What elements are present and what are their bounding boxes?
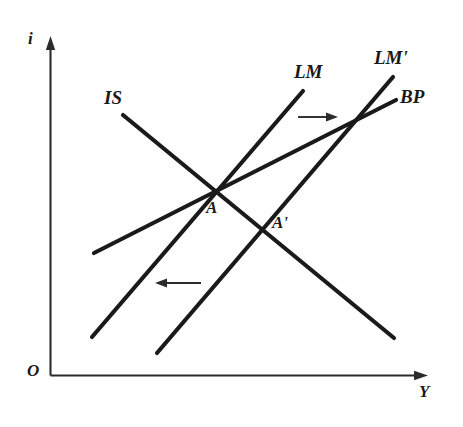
rightward-shift-arrow-head — [326, 113, 338, 122]
x-axis-arrowhead — [414, 371, 428, 380]
equilibrium-a-prime-label: A' — [272, 214, 288, 231]
bp-curve-label: BP — [400, 87, 424, 106]
shift-arrow-group — [155, 113, 338, 288]
is-lm-bp-diagram: i Y O IS LM LM' BP A A' — [0, 0, 463, 427]
equilibrium-a-label: A — [206, 199, 217, 216]
lm-curve-label: LM — [294, 62, 323, 81]
lm-prime-curve-label: LM' — [374, 48, 408, 67]
leftward-shift-arrow-head — [155, 279, 167, 288]
x-axis-label: Y — [419, 383, 429, 400]
is-curve-label: IS — [104, 88, 122, 107]
bp-curve — [94, 100, 396, 253]
origin-label: O — [27, 362, 39, 379]
y-axis-arrowhead — [46, 36, 55, 50]
curve-group — [92, 77, 396, 353]
y-axis-label: i — [28, 30, 33, 47]
is-curve — [123, 115, 394, 338]
